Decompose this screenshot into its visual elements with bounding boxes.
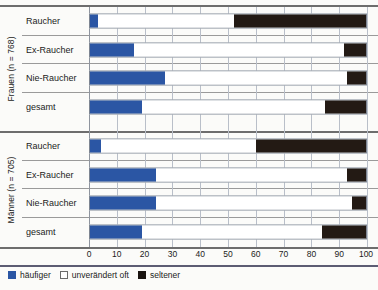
- bar-row-frauen-raucher: Raucher: [0, 7, 378, 35]
- x-axis: 0 10 20 30 40 50 60 70 80 90 100: [0, 249, 378, 265]
- segment-seltener: [322, 226, 366, 239]
- segment-seltener: [325, 101, 366, 114]
- segment-unveraendert: [156, 197, 352, 210]
- x-tick-100: 100: [359, 249, 373, 259]
- stacked-bar-chart: Frauen (n = 768) Männer (n = 705) Rauche…: [0, 0, 378, 290]
- segment-haeufiger: [90, 169, 156, 182]
- legend-label: seltener: [150, 270, 180, 280]
- row-label: Raucher: [26, 141, 60, 151]
- legend-item-seltener: seltener: [138, 270, 180, 280]
- segment-seltener: [347, 72, 366, 85]
- segment-haeufiger: [90, 44, 134, 57]
- legend-item-haeufiger: häufiger: [8, 270, 51, 280]
- stacked-bar: [89, 196, 367, 211]
- stacked-bar: [89, 225, 367, 240]
- row-label: Ex-Raucher: [26, 45, 74, 55]
- segment-unveraendert: [142, 226, 321, 239]
- x-tick-60: 60: [251, 249, 260, 259]
- x-tick-20: 20: [140, 249, 149, 259]
- segment-haeufiger: [90, 72, 165, 85]
- legend-swatch-icon: [60, 271, 68, 279]
- segment-seltener: [256, 140, 366, 153]
- segment-haeufiger: [90, 226, 142, 239]
- segment-unveraendert: [142, 101, 324, 114]
- bar-row-frauen-nie-raucher: Nie-Raucher: [0, 64, 378, 92]
- segment-haeufiger: [90, 101, 142, 114]
- x-tick-10: 10: [112, 249, 121, 259]
- segment-unveraendert: [134, 44, 344, 57]
- bar-row-frauen-gesamt: gesamt: [0, 93, 378, 121]
- stacked-bar: [89, 139, 367, 154]
- bar-row-maenner-nie-raucher: Nie-Raucher: [0, 189, 378, 217]
- x-tick-90: 90: [334, 249, 343, 259]
- segment-seltener: [352, 197, 366, 210]
- x-tick-70: 70: [279, 249, 288, 259]
- legend-item-unveraendert-oft: unverändert oft: [60, 270, 129, 280]
- segment-seltener: [347, 169, 366, 182]
- row-label: Raucher: [26, 16, 60, 26]
- segment-unveraendert: [101, 140, 256, 153]
- x-tick-40: 40: [195, 249, 204, 259]
- legend-swatch-icon: [138, 271, 146, 279]
- x-tick-80: 80: [307, 249, 316, 259]
- row-label: Nie-Raucher: [26, 198, 77, 208]
- row-label: Nie-Raucher: [26, 73, 77, 83]
- stacked-bar: [89, 71, 367, 86]
- segment-haeufiger: [90, 140, 101, 153]
- segment-unveraendert: [165, 72, 347, 85]
- segment-haeufiger: [90, 197, 156, 210]
- stacked-bar: [89, 100, 367, 115]
- x-tick-0: 0: [87, 249, 92, 259]
- segment-seltener: [344, 44, 366, 57]
- segment-unveraendert: [98, 15, 233, 28]
- segment-seltener: [234, 15, 366, 28]
- stacked-bar: [89, 168, 367, 183]
- segment-unveraendert: [156, 169, 346, 182]
- row-label: gesamt: [26, 227, 56, 237]
- x-tick-50: 50: [223, 249, 232, 259]
- bar-row-maenner-ex-raucher: Ex-Raucher: [0, 161, 378, 189]
- legend-label: häufiger: [20, 270, 51, 280]
- row-label: gesamt: [26, 102, 56, 112]
- chart-legend: häufiger unverändert oft seltener: [8, 270, 180, 280]
- legend-swatch-icon: [8, 271, 16, 279]
- stacked-bar: [89, 14, 367, 29]
- stacked-bar: [89, 43, 367, 58]
- legend-label: unverändert oft: [72, 270, 129, 280]
- x-tick-30: 30: [168, 249, 177, 259]
- row-label: Ex-Raucher: [26, 170, 74, 180]
- bar-row-frauen-ex-raucher: Ex-Raucher: [0, 36, 378, 64]
- bar-row-maenner-raucher: Raucher: [0, 132, 378, 160]
- legend-separator: [0, 265, 378, 267]
- segment-haeufiger: [90, 15, 98, 28]
- bar-row-maenner-gesamt: gesamt: [0, 218, 378, 246]
